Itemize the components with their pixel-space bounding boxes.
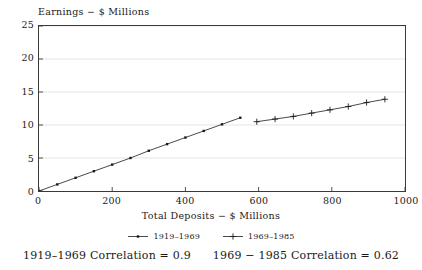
y-tick-label: 20 — [8, 54, 34, 64]
y-tick-label: 0 — [8, 187, 34, 197]
series-2 — [254, 96, 388, 125]
correlation-label-second: 1969 − 1985 Correlation = 0.62 — [213, 249, 399, 262]
legend-dot-marker-icon — [127, 232, 149, 241]
x-axis-title: Total Deposits − $ Millions — [0, 210, 422, 221]
correlation-label-first: 1919–1969 Correlation = 0.9 — [23, 249, 191, 262]
legend-plus-marker-icon — [222, 232, 244, 241]
x-tick-label: 600 — [249, 196, 268, 206]
plot-area — [38, 25, 406, 192]
y-tick-label: 15 — [8, 87, 34, 97]
scatter-line-chart: Earnings − $ Millions Total Deposits − $… — [0, 0, 422, 270]
legend-label: 1969–1985 — [248, 232, 295, 241]
x-tick-label: 400 — [176, 196, 195, 206]
legend-entry: 1919–1969 — [127, 232, 200, 241]
series-1 — [39, 117, 241, 191]
x-tick-label: 0 — [35, 196, 41, 206]
correlation-footer: 1919–1969 Correlation = 0.9 1969 − 1985 … — [0, 249, 422, 262]
x-tick-label: 1000 — [394, 196, 419, 206]
legend-label: 1919–1969 — [153, 232, 200, 241]
legend-entry: 1969–1985 — [222, 232, 295, 241]
x-tick-label: 200 — [102, 196, 121, 206]
y-tick-label: 25 — [8, 20, 34, 30]
x-tick-label: 800 — [323, 196, 342, 206]
chart-legend: 1919–19691969–1985 — [0, 232, 422, 241]
plot-canvas — [39, 26, 405, 191]
y-tick-label: 5 — [8, 154, 34, 164]
y-axis-title: Earnings − $ Millions — [38, 6, 149, 17]
y-tick-label: 10 — [8, 120, 34, 130]
